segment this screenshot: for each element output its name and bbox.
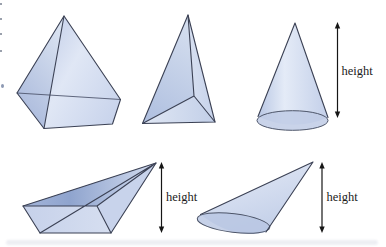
right-cone-body [258,23,328,125]
oblique-cone [196,162,313,237]
arrowhead-top [319,162,324,169]
arrowhead-top [159,162,164,169]
square-pyramid [17,16,121,129]
oblique-pyramid-height-label: height [166,190,198,204]
cone-height-dimension: height [335,22,373,118]
arrowhead-bottom [319,227,324,234]
arrowhead-bottom [159,227,164,234]
oblique-cone-height-dimension: height [319,162,358,233]
cone-height-label: height [342,64,374,78]
oblique-pyramid-height-dimension: height [159,162,198,233]
arrowhead-bottom [335,112,340,119]
geometry-figure: height height height [0,0,386,247]
right-cone-base [257,111,328,131]
figure-canvas: height height height [0,0,386,247]
right-cone [257,23,328,130]
oblique-pyramid [23,163,156,233]
oblique-cone-height-label: height [327,190,359,204]
arrowhead-top [335,22,340,29]
triangular-pyramid [143,15,216,124]
